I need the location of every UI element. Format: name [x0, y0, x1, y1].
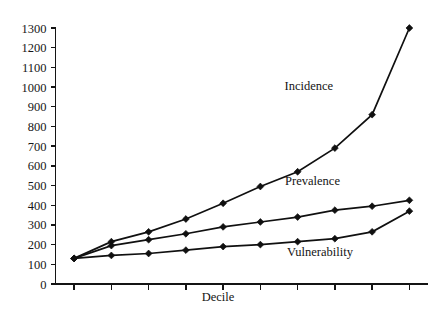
- data-point-marker: [369, 228, 376, 235]
- data-point-marker: [331, 207, 338, 214]
- data-point-marker: [294, 214, 301, 221]
- y-tick-label: 100: [28, 258, 47, 272]
- y-axis-tick-labels: 0100200300400500600700800900100011001200…: [22, 22, 47, 292]
- data-point-marker: [145, 250, 152, 257]
- series-line-prevalence: [74, 200, 409, 258]
- data-point-marker: [220, 200, 227, 207]
- data-point-marker: [257, 219, 264, 226]
- y-tick-label: 200: [28, 238, 47, 252]
- data-point-marker: [182, 247, 189, 254]
- series-label-prevalence: Prevalence: [285, 174, 340, 188]
- data-point-marker: [145, 228, 152, 235]
- y-tick-label: 900: [28, 100, 47, 114]
- y-tick-label: 1100: [22, 61, 47, 75]
- data-point-marker: [294, 238, 301, 245]
- series-annotation-labels: IncidencePrevalenceVulnerability: [285, 79, 354, 259]
- x-axis-ticks: [74, 284, 409, 290]
- y-tick-label: 1000: [22, 81, 47, 95]
- y-tick-label: 500: [28, 179, 47, 193]
- data-point-marker: [369, 203, 376, 210]
- x-axis-title: Decile: [202, 290, 235, 304]
- data-point-marker: [257, 183, 264, 190]
- data-point-marker: [220, 223, 227, 230]
- series-line-vulnerability: [74, 211, 409, 258]
- data-point-marker: [257, 241, 264, 248]
- y-tick-label: 800: [28, 120, 47, 134]
- line-chart: 0100200300400500600700800900100011001200…: [0, 0, 448, 312]
- y-tick-label: 1300: [22, 22, 47, 36]
- data-point-marker: [331, 235, 338, 242]
- chart-figure: 0100200300400500600700800900100011001200…: [0, 0, 448, 312]
- data-point-marker: [182, 216, 189, 223]
- data-point-marker: [406, 197, 413, 204]
- data-point-marker: [108, 252, 115, 259]
- y-tick-label: 700: [28, 140, 47, 154]
- series-label-vulnerability: Vulnerability: [287, 245, 354, 259]
- y-tick-label: 400: [28, 199, 47, 213]
- series-label-incidence: Incidence: [285, 79, 334, 93]
- data-point-marker: [145, 236, 152, 243]
- data-point-marker: [182, 230, 189, 237]
- y-tick-label: 600: [28, 159, 47, 173]
- y-tick-label: 0: [40, 278, 46, 292]
- y-tick-label: 300: [28, 218, 47, 232]
- data-point-marker: [71, 255, 78, 262]
- data-point-marker: [406, 208, 413, 215]
- data-point-marker: [406, 25, 413, 32]
- y-tick-label: 1200: [22, 41, 47, 55]
- data-point-marker: [220, 243, 227, 250]
- data-series-group: [71, 25, 413, 262]
